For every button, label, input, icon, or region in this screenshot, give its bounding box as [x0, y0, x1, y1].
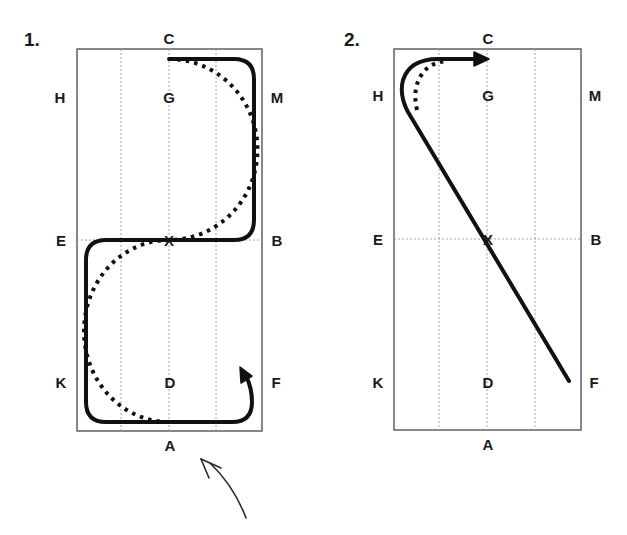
diagram-1: 1. C H G M E X B K D F A	[24, 29, 283, 454]
letter-g: G	[482, 87, 494, 104]
dotted-turn-path	[415, 61, 448, 110]
letter-a: A	[483, 436, 494, 453]
letter-m: M	[271, 89, 284, 106]
letter-f: F	[271, 374, 280, 391]
letter-c: C	[483, 30, 494, 47]
dressage-diagrams: 1. C H G M E X B K D F A 2. C H G	[0, 0, 627, 535]
letter-e: E	[56, 232, 66, 249]
diagram-number: 1.	[24, 29, 40, 50]
letter-a: A	[165, 437, 176, 454]
letter-f: F	[589, 374, 598, 391]
letter-c: C	[164, 30, 175, 47]
letter-d: D	[165, 374, 176, 391]
letter-k: K	[56, 374, 67, 391]
letter-e: E	[373, 231, 383, 248]
letter-g: G	[163, 89, 175, 106]
diagram-number: 2.	[344, 29, 360, 50]
arrow-head-icon	[240, 367, 252, 383]
letter-b: B	[272, 232, 283, 249]
letter-h: H	[373, 87, 384, 104]
solid-serpentine-path	[86, 59, 254, 422]
letter-d: D	[483, 374, 494, 391]
diagram-2: 2. C H G M E X B K D F A	[344, 29, 602, 453]
letter-h: H	[55, 89, 66, 106]
letter-m: M	[589, 87, 602, 104]
letter-b: B	[591, 231, 602, 248]
letter-k: K	[373, 374, 384, 391]
solid-diagonal-path	[402, 59, 569, 381]
handwritten-arrow-icon	[201, 459, 246, 518]
